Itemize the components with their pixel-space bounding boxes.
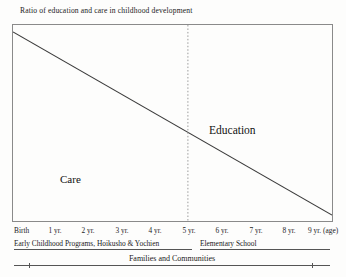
age-axis: Birth 1 yr. 2 yr. 3 yr. 4 yr. 5 yr. 6 yr… bbox=[12, 226, 333, 238]
age-tick-6yr: 6 yr. bbox=[215, 226, 228, 235]
families-and-communities-label: Families and Communities bbox=[14, 254, 330, 263]
care-education-boundary-line bbox=[13, 32, 332, 215]
age-tick-2yr: 2 yr. bbox=[81, 226, 94, 235]
families-rule bbox=[14, 265, 330, 266]
age-tick-birth: Birth bbox=[14, 226, 29, 235]
band-families-and-communities: Families and Communities bbox=[14, 254, 330, 274]
age-tick-4yr: 4 yr. bbox=[148, 226, 161, 235]
plot-area: Care Education bbox=[12, 24, 333, 222]
diagram-page: Ratio of education and care in childhood… bbox=[0, 0, 346, 277]
age-tick-7yr: 7 yr. bbox=[249, 226, 262, 235]
age-tick-8yr: 8 yr. bbox=[282, 226, 295, 235]
page-title: Ratio of education and care in childhood… bbox=[20, 6, 193, 15]
age-tick-1yr: 1 yr. bbox=[48, 226, 61, 235]
age-tick-3yr: 3 yr. bbox=[115, 226, 128, 235]
region-label-education: Education bbox=[209, 124, 256, 136]
region-label-care: Care bbox=[60, 173, 81, 185]
plot-graphics bbox=[13, 25, 332, 221]
band-elementary-school: Elementary School bbox=[200, 239, 330, 250]
age-tick-9yr: 9 yr. (age) bbox=[308, 226, 338, 235]
age-tick-5yr: 5 yr. bbox=[182, 226, 195, 235]
band-early-childhood-programs: Early Childhood Programs, Hoikusho & Yoc… bbox=[14, 239, 192, 250]
